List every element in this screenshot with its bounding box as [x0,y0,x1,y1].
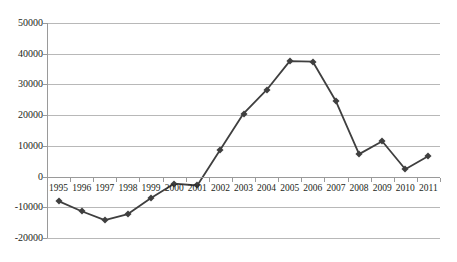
x-axis-tick [70,178,71,182]
y-axis-tick-label: 10000 [18,141,43,151]
x-axis-tick-label: 2005 [280,184,299,194]
y-axis-tick [43,207,47,208]
x-axis-tick-label: 1995 [49,184,68,194]
x-axis-tick [47,178,48,182]
x-axis-tick-label: 1998 [118,184,137,194]
x-axis-tick [371,178,372,182]
plot-area [47,23,440,238]
x-axis-line [47,177,440,178]
y-axis-tick [43,23,47,24]
x-axis-tick [417,178,418,182]
y-axis-tick-label: 20000 [18,110,43,120]
x-axis-tick [186,178,187,182]
y-axis-tick-label: 30000 [18,79,43,89]
x-axis-tick [163,178,164,182]
x-axis-tick-label: 2010 [396,184,415,194]
x-axis-tick-label: 2009 [373,184,392,194]
x-axis-tick-label: 2008 [350,184,369,194]
x-axis-tick [255,178,256,182]
x-axis-tick-label: 1997 [95,184,114,194]
line-series [47,23,440,238]
y-axis-tick-label: 50000 [18,18,43,28]
x-axis-tick [324,178,325,182]
x-axis-tick-label: 2000 [165,184,184,194]
x-axis-tick-label: 1999 [142,184,161,194]
x-axis-tick-label: 2003 [234,184,253,194]
x-axis-tick-label: 2007 [326,184,345,194]
y-axis-tick [43,146,47,147]
x-axis-tick-label: 1996 [72,184,91,194]
chart-container: 50000400003000020000100000-10000-20000 1… [0,0,457,262]
x-axis-tick [139,178,140,182]
x-axis-tick [301,178,302,182]
x-axis-tick-label: 2001 [188,184,207,194]
y-axis-line [47,23,48,238]
x-axis-tick [232,178,233,182]
x-axis-tick [440,178,441,182]
y-axis-tick-label: 40000 [18,49,43,59]
x-axis-tick-label: 2002 [211,184,230,194]
x-axis-tick [348,178,349,182]
y-axis-tick-label: -10000 [15,202,43,212]
y-axis-tick [43,54,47,55]
y-axis-tick-label: -20000 [15,233,43,243]
x-axis-tick [278,178,279,182]
y-axis-tick [43,238,47,239]
x-axis-tick [394,178,395,182]
x-axis-tick-label: 2006 [303,184,322,194]
x-axis-tick [93,178,94,182]
y-axis-tick [43,84,47,85]
x-axis-tick-label: 2011 [419,184,438,194]
gridline [47,238,440,239]
x-axis-tick [209,178,210,182]
y-axis-tick [43,115,47,116]
x-axis-tick-label: 2004 [257,184,276,194]
x-axis-tick [116,178,117,182]
